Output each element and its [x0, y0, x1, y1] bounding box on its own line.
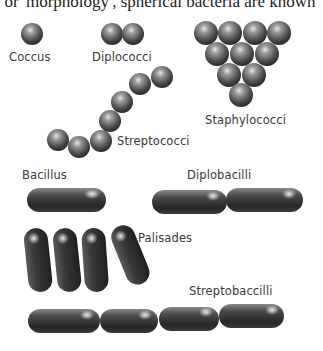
bacteria-morphology-diagram: , or 'morphology', spherical bacteria ar… — [0, 0, 323, 351]
label-streptobacilli: Streptobaccilli — [189, 284, 272, 298]
label-staphylococci: Staphylococci — [205, 113, 286, 127]
diplobacilli-illustration — [152, 188, 303, 214]
coccus-illustration — [21, 23, 43, 45]
bacillus-illustration — [27, 188, 106, 212]
palisades-illustration — [23, 222, 153, 293]
label-streptococci: Streptococci — [117, 134, 190, 148]
label-diplococci: Diplococci — [92, 50, 152, 64]
diplococci-illustration — [101, 23, 144, 45]
streptobacilli-illustration — [28, 304, 284, 333]
label-coccus: Coccus — [9, 50, 51, 64]
label-diplobacilli: Diplobacilli — [187, 168, 251, 182]
label-bacillus: Bacillus — [22, 168, 67, 182]
staphylococci-illustration — [194, 21, 291, 107]
label-palisades: Palisades — [138, 231, 192, 245]
